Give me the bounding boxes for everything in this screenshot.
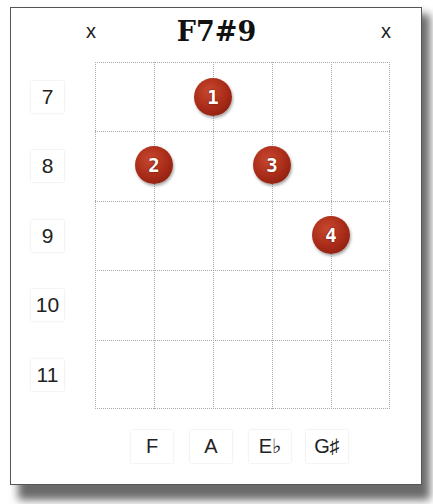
note-label-4: G♯ — [306, 430, 348, 463]
fret-label-8: 8 — [31, 150, 64, 182]
fret-label-9: 9 — [31, 220, 64, 252]
chord-title: F7#9 — [0, 16, 433, 47]
finger-dot-1: 1 — [194, 78, 232, 116]
fret-line — [95, 340, 390, 341]
fret-label-7: 7 — [31, 81, 64, 113]
fret-line — [95, 131, 390, 132]
finger-dot-3: 3 — [253, 146, 291, 184]
finger-dot-4: 4 — [312, 216, 350, 254]
fret-label-10: 10 — [31, 289, 64, 321]
string-line — [154, 62, 155, 409]
mute-marker-low-e: x — [86, 20, 96, 43]
fret-label-11: 11 — [31, 359, 64, 391]
fret-line — [95, 201, 390, 202]
mute-marker-high-e: x — [381, 20, 391, 43]
finger-dot-2: 2 — [135, 146, 173, 184]
note-label-3: E♭ — [249, 430, 291, 463]
note-label-2: A — [190, 430, 232, 463]
string-line — [272, 62, 273, 409]
note-label-1: F — [131, 430, 173, 463]
fret-line — [95, 270, 390, 271]
